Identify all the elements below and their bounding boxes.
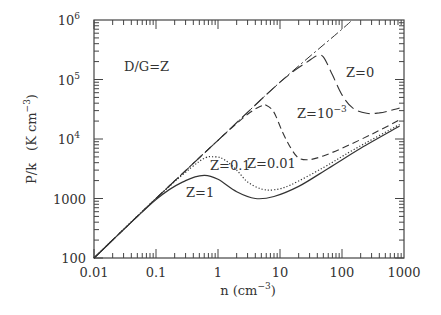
y-axis-label: P/k(K cm−3): [22, 94, 39, 184]
curve-z-0: [94, 20, 352, 258]
label-z0.1: Z=0.1: [210, 158, 251, 173]
y-tick-label: 1000: [53, 192, 86, 207]
label-z1: Z=1: [186, 185, 214, 200]
axis-ticks: [94, 20, 404, 258]
x-tick-label: 1: [214, 265, 222, 280]
x-axis-label: n (cm−3): [220, 281, 276, 298]
curve-z-0.01: [94, 105, 400, 258]
curve-z-0.1: [94, 125, 400, 259]
y-tick-label: 100: [61, 251, 86, 266]
x-tick-label: 10: [272, 265, 289, 280]
x-tick-labels: 0.010.11101001000: [80, 265, 421, 280]
y-tick-labels: 1001000104105106: [53, 11, 86, 266]
label-z1e-3: Z=10−3: [297, 104, 347, 121]
curves: [94, 20, 400, 258]
x-tick-label: 1000: [387, 265, 420, 280]
y-tick-label: 105: [58, 71, 81, 88]
x-tick-label: 100: [330, 265, 355, 280]
annotation-dg-z: D/G=Z: [124, 59, 169, 74]
y-tick-label: 104: [58, 130, 81, 147]
label-z0.01: Z=0.01: [247, 156, 296, 171]
plot-frame: [94, 20, 404, 258]
x-tick-label: 0.1: [146, 265, 167, 280]
y-tick-label: 106: [58, 11, 81, 28]
curve-z-1: [94, 126, 400, 258]
x-tick-label: 0.01: [80, 265, 109, 280]
pressure-density-chart: 0.010.11101001000 1001000104105106 D/G=Z…: [0, 0, 441, 315]
label-z0: Z=0: [346, 65, 374, 80]
